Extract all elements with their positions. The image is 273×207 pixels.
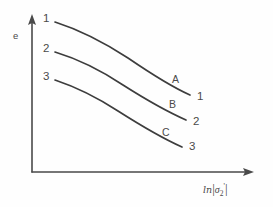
y-axis-label: e xyxy=(13,31,18,41)
x-axis xyxy=(32,168,254,176)
y-axis xyxy=(28,14,36,172)
curve-name-label-a: A xyxy=(172,74,179,85)
curve-start-label-1: 1 xyxy=(43,13,49,25)
x-axis-label: ln|σ2'| xyxy=(203,182,228,198)
chart-svg xyxy=(0,0,273,207)
curve-name-label-c: C xyxy=(162,127,170,138)
x-axis-label-ln: ln xyxy=(203,184,212,195)
curve-b xyxy=(55,52,186,120)
curve-end-label-2: 2 xyxy=(193,116,199,128)
curve-name-label-b: B xyxy=(169,99,176,110)
curve-end-label-3: 3 xyxy=(189,141,195,153)
x-axis-label-close-bar: | xyxy=(225,181,228,196)
figure-canvas: e ln|σ2'| 1 2 3 A B C 1 2 3 xyxy=(0,0,273,207)
curve-start-label-3: 3 xyxy=(43,71,49,83)
curve-end-label-1: 1 xyxy=(197,91,203,103)
curve-start-label-2: 2 xyxy=(43,43,49,55)
